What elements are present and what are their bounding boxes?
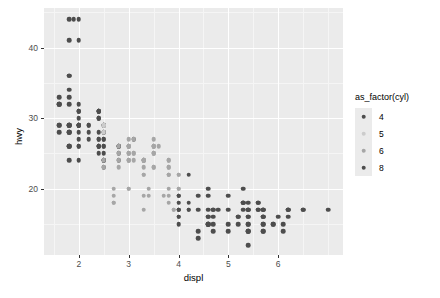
legend-key-dot-icon [361, 165, 366, 170]
data-point [186, 172, 191, 177]
legend-key-dot-icon [361, 114, 366, 119]
legend-entry-label: 8 [379, 163, 384, 173]
legend-key-dot-icon [361, 148, 366, 153]
data-point [166, 193, 171, 198]
data-point [226, 222, 231, 227]
legend-entry-list: 4568 [355, 108, 437, 176]
legend-entry: 5 [355, 125, 437, 142]
data-point [236, 215, 241, 220]
data-point [87, 137, 92, 142]
y-tick-label: 40 [29, 43, 38, 53]
legend: as_factor(cyl) 4568 [355, 92, 437, 176]
data-point [256, 200, 261, 205]
data-point [166, 158, 171, 163]
data-point [261, 222, 266, 227]
data-point [67, 102, 72, 107]
data-point [166, 200, 171, 205]
x-tick-mark [79, 255, 80, 258]
data-point [116, 151, 121, 156]
gridline-minor-horizontal [44, 153, 343, 154]
data-point [77, 109, 82, 114]
data-point [77, 130, 82, 135]
data-point [326, 208, 331, 213]
gridline-minor-horizontal [44, 12, 343, 13]
legend-entry-label: 6 [379, 146, 384, 156]
data-point [226, 229, 231, 234]
data-point [246, 215, 251, 220]
data-point [77, 158, 82, 163]
data-point [72, 17, 77, 22]
y-tick-label: 20 [29, 184, 38, 194]
data-point [131, 137, 136, 142]
y-tick-label: 30 [29, 113, 38, 123]
data-point [161, 193, 166, 198]
x-tick-mark [129, 255, 130, 258]
data-point [176, 193, 181, 198]
data-point [176, 186, 181, 191]
x-tick-mark [179, 255, 180, 258]
data-point [77, 116, 82, 121]
data-point [141, 193, 146, 198]
data-point [102, 123, 107, 128]
x-tick-label: 4 [176, 259, 181, 269]
plot-panel [44, 8, 343, 255]
data-point [261, 229, 266, 234]
gridline-minor-vertical [203, 8, 204, 255]
gridline-minor-vertical [154, 8, 155, 255]
x-tick-label: 2 [77, 259, 82, 269]
data-point [246, 200, 251, 205]
data-point [176, 172, 181, 177]
data-point [77, 17, 82, 22]
data-point [176, 208, 181, 213]
data-point [206, 215, 211, 220]
data-point [77, 137, 82, 142]
data-point [206, 222, 211, 227]
y-tick-mark [41, 118, 44, 119]
gridline-major-horizontal [44, 48, 343, 49]
data-point [151, 144, 156, 149]
gridline-minor-horizontal [44, 83, 343, 84]
data-point [276, 215, 281, 220]
data-point [186, 208, 191, 213]
gridline-major-horizontal [44, 118, 343, 119]
data-point [146, 193, 151, 198]
data-point [256, 208, 261, 213]
data-point [206, 193, 211, 198]
data-point [116, 158, 121, 163]
data-point [67, 95, 72, 100]
data-point [211, 208, 216, 213]
data-point [241, 208, 246, 213]
data-point [102, 137, 107, 142]
data-point [97, 137, 102, 142]
legend-entry-label: 5 [379, 129, 384, 139]
legend-key-swatch [355, 159, 372, 176]
x-tick-mark [228, 255, 229, 258]
data-point [166, 172, 171, 177]
data-point [261, 208, 266, 213]
data-point [176, 215, 181, 220]
data-point [67, 158, 72, 163]
gridline-major-vertical [228, 8, 229, 255]
data-point [261, 215, 266, 220]
data-point [111, 193, 116, 198]
y-axis-title: hwy [13, 107, 24, 167]
data-point [226, 208, 231, 213]
gridline-major-vertical [129, 8, 130, 255]
data-point [102, 144, 107, 149]
data-point [126, 186, 131, 191]
data-point [87, 123, 92, 128]
data-point [57, 130, 62, 135]
data-point [241, 200, 246, 205]
data-point [102, 165, 107, 170]
data-point [211, 222, 216, 227]
data-point [186, 200, 191, 205]
data-point [246, 229, 251, 234]
data-point [236, 222, 241, 227]
data-point [286, 208, 291, 213]
data-point [97, 130, 102, 135]
data-point [171, 208, 176, 213]
data-point [151, 165, 156, 170]
data-point [206, 186, 211, 191]
gridline-minor-vertical [328, 8, 329, 255]
data-point [166, 165, 171, 170]
